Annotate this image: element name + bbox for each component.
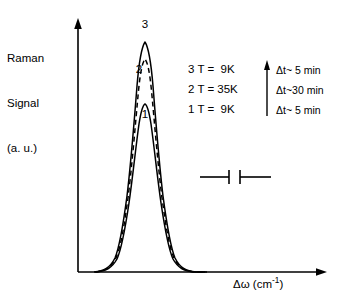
y-axis-label: Raman Signal (a. u.) — [7, 21, 44, 186]
x-axis-label: Δω (cm-1) — [233, 277, 283, 292]
resolution-bar-left — [200, 170, 229, 184]
resolution-bar-right — [240, 170, 271, 184]
curve-1-path — [96, 104, 205, 272]
legend-entry-1-delta-t: Δt~ 5 min — [276, 104, 321, 116]
legend-entry-3-temperature: 3 T = 9K — [188, 63, 235, 75]
curve-label-3: 3 — [137, 18, 153, 30]
curve-label-1: 1 — [137, 108, 153, 120]
x-axis-label-suffix: ) — [279, 278, 283, 290]
raman-spectrum-figure: Raman Signal (a. u.) Δω (cm-1) 3 2 1 3 T… — [0, 0, 340, 307]
legend-entry-2-delta-t: Δt~30 min — [276, 84, 324, 96]
legend-entry-1-temperature: 1 T = 9K — [188, 103, 235, 115]
y-axis-label-line-2: Signal — [7, 96, 44, 111]
legend-entry-2-temperature: 2 T = 35K — [188, 83, 238, 95]
y-axis-label-line-1: Raman — [7, 51, 44, 66]
y-axis-label-line-3: (a. u.) — [7, 141, 44, 156]
curve-label-2: 2 — [131, 63, 147, 75]
legend-divider-arrow — [264, 60, 270, 116]
plot-canvas — [0, 0, 340, 307]
legend-entry-3-delta-t: Δt~ 5 min — [276, 64, 321, 76]
y-axis — [74, 18, 82, 272]
x-axis-label-prefix: Δω (cm — [233, 278, 272, 290]
